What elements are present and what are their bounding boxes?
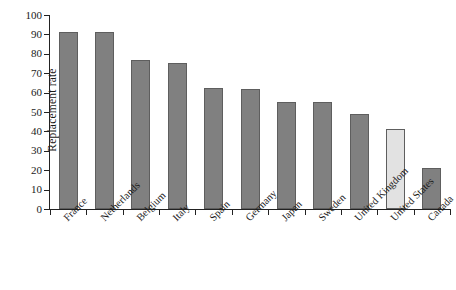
- x-tick-mark: [377, 210, 378, 215]
- y-tick-label: 60: [6, 87, 42, 98]
- y-tick-label: 20: [6, 165, 42, 176]
- x-tick-mark: [232, 210, 233, 215]
- x-tick-mark: [414, 210, 415, 215]
- x-tick-mark: [450, 210, 451, 215]
- bar-germany: [241, 89, 260, 209]
- bar-france: [59, 32, 78, 209]
- x-tick-mark: [50, 210, 51, 215]
- y-tick-label: 10: [6, 184, 42, 195]
- x-tick-mark: [195, 210, 196, 215]
- bar-united-kingdom: [350, 114, 369, 209]
- y-tick-label: 70: [6, 68, 42, 79]
- x-tick-mark: [123, 210, 124, 215]
- x-tick-mark: [268, 210, 269, 215]
- bar-japan: [277, 102, 296, 209]
- y-tick-label: 80: [6, 48, 42, 59]
- y-tick-label: 40: [6, 126, 42, 137]
- y-tick-label: 30: [6, 145, 42, 156]
- y-tick-label: 90: [6, 29, 42, 40]
- bar-sweden: [313, 102, 332, 209]
- bar-spain: [204, 88, 223, 209]
- x-tick-mark: [159, 210, 160, 215]
- bar-netherlands: [95, 32, 114, 209]
- y-tick-label: 50: [6, 107, 42, 118]
- x-tick-mark: [86, 210, 87, 215]
- bar-italy: [168, 63, 187, 209]
- y-tick-label: 0: [6, 204, 42, 215]
- x-tick-mark: [305, 210, 306, 215]
- x-tick-mark: [341, 210, 342, 215]
- y-tick-label: 100: [6, 10, 42, 21]
- replacement-rate-bar-chart: Replacement rate 0102030405060708090100 …: [0, 0, 456, 290]
